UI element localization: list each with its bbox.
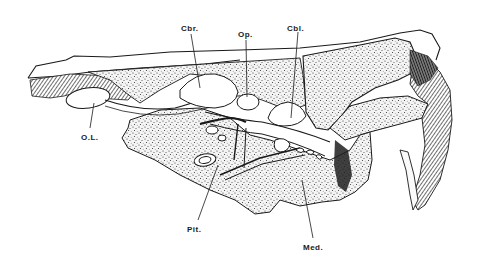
label-cerebrum: Cbr. bbox=[181, 24, 199, 33]
hook-process bbox=[400, 150, 418, 210]
optic-lobe bbox=[237, 94, 259, 110]
label-olfactory-lobe: O.L. bbox=[81, 133, 99, 142]
skull-section-diagram bbox=[0, 0, 478, 265]
label-cerebellum: Cbl. bbox=[287, 24, 304, 33]
label-pituitary: Pit. bbox=[187, 225, 201, 234]
label-medulla: Med. bbox=[303, 243, 323, 252]
label-optic-lobe: Op. bbox=[238, 30, 253, 39]
cerebrum bbox=[180, 74, 238, 108]
